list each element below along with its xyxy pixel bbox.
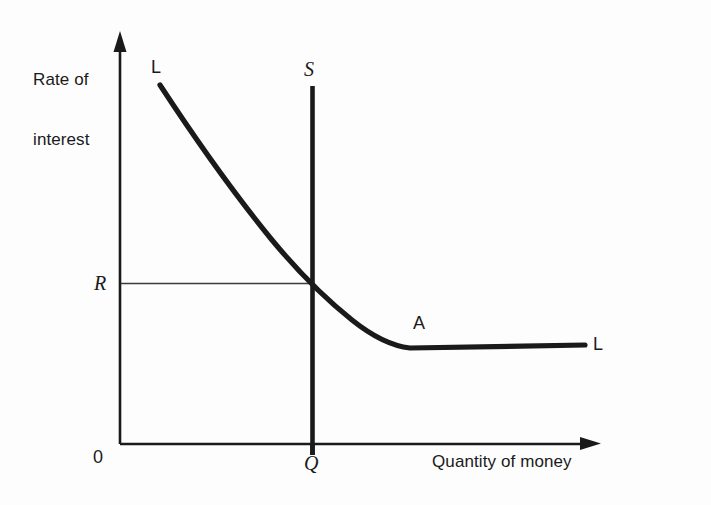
curve-label-l-right: L — [593, 334, 603, 355]
y-axis-title-line-1: Rate of — [33, 70, 90, 90]
y-axis-title: Rate of interest — [33, 30, 90, 190]
curve-label-s: S — [304, 58, 314, 82]
point-label-a: A — [413, 313, 425, 334]
y-axis — [114, 31, 127, 444]
x-tick-label-q: Q — [304, 452, 318, 476]
x-axis — [120, 437, 601, 450]
chart-canvas — [0, 0, 711, 505]
y-axis-title-line-2: interest — [33, 130, 90, 150]
origin-label: 0 — [93, 447, 103, 468]
curve-label-l-top: L — [151, 57, 161, 78]
y-tick-label-r: R — [94, 272, 106, 296]
x-axis-title: Quantity of money — [432, 452, 572, 472]
liquidity-preference-curve — [160, 85, 585, 348]
liquidity-preference-diagram: Rate of interest Quantity of money 0 R Q… — [0, 0, 711, 505]
